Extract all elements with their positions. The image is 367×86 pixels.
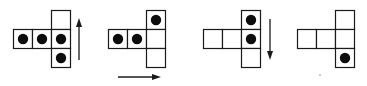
cell-top <box>52 11 71 30</box>
cell-junction <box>147 30 166 49</box>
panel-4 <box>298 11 355 68</box>
ball-left <box>113 34 123 44</box>
ball-junction <box>246 34 256 44</box>
ball-left <box>18 34 28 44</box>
cell-left <box>204 30 223 49</box>
cell-middle <box>317 30 336 49</box>
cell-middle <box>223 30 242 49</box>
scan-speck <box>319 74 321 76</box>
panel-3 <box>204 11 274 68</box>
cell-bottom <box>147 49 166 68</box>
ball-top <box>151 15 161 25</box>
cell-top <box>336 11 355 30</box>
arrow-up-icon <box>76 18 82 60</box>
arrow-down-icon <box>267 19 273 60</box>
ball-top <box>246 15 256 25</box>
cell-junction <box>336 30 355 49</box>
ball-junction <box>56 34 66 44</box>
panel-2 <box>109 11 166 81</box>
arrow-right-icon <box>118 74 161 80</box>
cell-bottom <box>242 49 261 68</box>
cell-left <box>298 30 317 49</box>
ball-middle <box>132 34 142 44</box>
panel-1 <box>14 11 83 68</box>
ball-middle <box>37 34 47 44</box>
ball-bottom <box>340 53 350 63</box>
ball-bottom <box>56 53 66 63</box>
ball-grid-diagram <box>0 0 367 86</box>
